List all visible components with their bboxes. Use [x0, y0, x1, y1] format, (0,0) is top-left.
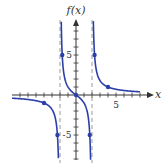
- right-branch-curve: [93, 21, 140, 92]
- data-point: [74, 93, 78, 97]
- data-point: [42, 101, 46, 105]
- data-point: [92, 53, 96, 57]
- y-tick-label-neg5: -5: [63, 130, 72, 140]
- data-point: [88, 133, 92, 137]
- y-axis-arrow-icon: [73, 19, 79, 26]
- x-tick-label-5: 5: [113, 100, 119, 110]
- y-axis-label: f(x): [66, 4, 86, 17]
- data-point: [60, 53, 64, 57]
- y-tick-label-5: 5: [66, 50, 72, 60]
- data-point: [106, 85, 110, 89]
- x-axis-label: x: [155, 88, 162, 101]
- data-point: [55, 133, 59, 137]
- left-branch-curve: [12, 98, 58, 158]
- axes: [12, 19, 154, 160]
- function-graph: f(x) x 5 5 -5: [0, 0, 166, 165]
